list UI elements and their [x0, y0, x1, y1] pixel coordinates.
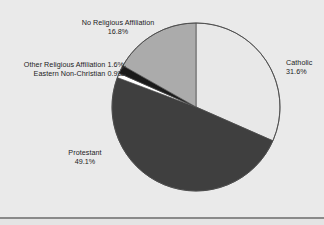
- slice-label-no-religious-affiliation: No Religious Affiliation 16.8%: [62, 18, 174, 36]
- bottom-strip: [0, 219, 324, 225]
- slice-label-name: Protestant: [52, 148, 118, 157]
- slice-label-eastern-non-christian: Eastern Non-Christian 0.9%: [2, 69, 124, 78]
- slice-label-value: 16.8%: [62, 27, 174, 36]
- slice-label-other-and-eastern: Other Religious Affiliation 1.6% Eastern…: [2, 60, 124, 78]
- slice-label-value: 49.1%: [52, 157, 118, 166]
- slice-label-name: No Religious Affiliation: [62, 18, 174, 27]
- slice-label-name: Catholic: [286, 58, 322, 67]
- bottom-divider-rule: [0, 217, 324, 219]
- slice-label-catholic: Catholic 31.6%: [286, 58, 322, 76]
- slice-label-other-religious-affiliation: Other Religious Affiliation 1.6%: [2, 60, 124, 69]
- slice-label-value: 31.6%: [286, 67, 322, 76]
- slice-label-protestant: Protestant 49.1%: [52, 148, 118, 166]
- pie-chart-figure: No Religious Affiliation 16.8% Other Rel…: [0, 0, 324, 225]
- pie-slice-group: [112, 23, 280, 191]
